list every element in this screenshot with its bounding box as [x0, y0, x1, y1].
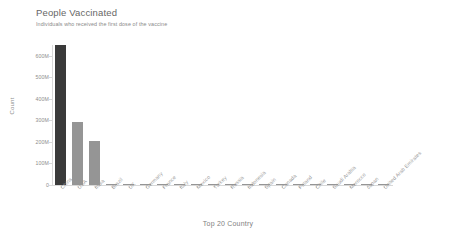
bar[interactable]: [89, 141, 100, 185]
y-axis-tick-label: 100M: [36, 160, 49, 166]
x-axis-title: Top 20 Country: [0, 220, 456, 227]
y-axis-tick-label: 300M: [36, 117, 49, 123]
chart-card: People Vaccinated Individuals who receiv…: [0, 0, 456, 239]
y-axis-tick-label: 500M: [36, 74, 49, 80]
plot-area: [52, 45, 392, 185]
y-axis-tick-labels: 0100M200M300M400M500M600M: [0, 0, 49, 239]
chart-subtitle: Individuals who received the first dose …: [36, 21, 167, 27]
y-axis-tick-label: 600M: [36, 53, 49, 59]
y-axis-tick-label: 400M: [36, 96, 49, 102]
bar[interactable]: [72, 122, 83, 185]
x-axis-tick-labels: ChinaUSAIndiaBrazilUKGermanyFranceItalyM…: [52, 186, 456, 239]
bar[interactable]: [55, 45, 66, 185]
y-axis-tick-label: 200M: [36, 139, 49, 145]
